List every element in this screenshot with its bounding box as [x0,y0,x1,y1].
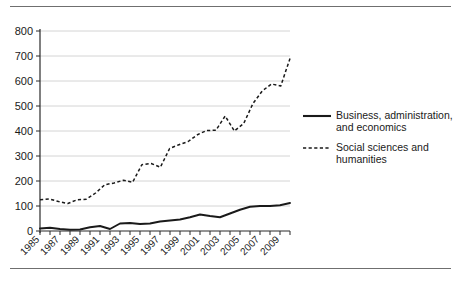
x-tick-label: 1997 [138,233,162,257]
legend-label-business-line1: Business, administration, [336,109,453,121]
figure: 800 700 600 500 400 300 200 100 0 198519… [0,0,461,284]
chart-area: 800 700 600 500 400 300 200 100 0 198519… [0,0,461,284]
y-tick-label: 700 [15,50,33,62]
x-tick-label: 2009 [258,233,282,257]
y-axis-tick-labels: 800 700 600 500 400 300 200 100 0 [15,25,33,237]
x-tick-label: 1987 [38,233,62,257]
legend: Business, administration, and economics … [303,109,453,165]
x-tick-label: 1985 [18,233,42,257]
legend-label-social-line1: Social sciences and [336,141,429,153]
x-tick-label: 1995 [118,233,142,257]
y-tick-label: 600 [15,75,33,87]
legend-label-social-line2: humanities [336,153,387,165]
y-tick-label: 500 [15,100,33,112]
x-tick-label: 2001 [178,233,202,257]
y-tick-label: 100 [15,200,33,212]
x-tick-label: 1993 [98,233,122,257]
y-tick-label: 200 [15,175,33,187]
y-tick-label: 300 [15,150,33,162]
x-axis-tick-labels: 1985198719891991199319951997199920012003… [18,233,282,257]
series-line-business-administration-and-economics [40,203,290,230]
x-tick-label: 2005 [218,233,242,257]
y-tick-label: 400 [15,125,33,137]
x-tick-label: 2007 [238,233,262,257]
x-tick-label: 1989 [58,233,82,257]
y-tick-label: 800 [15,25,33,37]
line-chart: 800 700 600 500 400 300 200 100 0 198519… [0,0,461,284]
x-tick-label: 2003 [198,233,222,257]
x-tick-label: 1999 [158,233,182,257]
legend-label-business-line2: and economics [336,121,407,133]
gridlines [40,31,290,206]
y-axis [36,29,40,233]
x-tick-label: 1991 [78,233,102,257]
